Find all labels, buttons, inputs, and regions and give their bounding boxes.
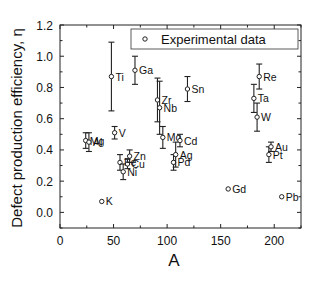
data-point-zr: Zr [154, 78, 171, 122]
point-label: Nb [164, 102, 178, 114]
data-point-mo: Mo [160, 127, 182, 149]
y-tick-label: 1.2 [36, 19, 53, 33]
marker-circle-icon [161, 135, 165, 139]
point-label: Au [275, 141, 288, 153]
marker-circle-icon [280, 195, 284, 199]
x-axis-title: A [168, 251, 180, 270]
point-label: Ga [139, 64, 153, 76]
y-tick-label: 0.2 [36, 175, 53, 189]
data-point-ti: Ti [108, 42, 123, 111]
y-axis-ticks: 0.00.20.40.60.81.01.2 [36, 19, 301, 229]
data-point-ga: Ga [132, 56, 153, 84]
plot-area-border [60, 25, 301, 228]
point-label: Ag [180, 149, 193, 161]
data-point-pb: Pb [280, 191, 299, 203]
y-tick-label: 0.4 [36, 143, 53, 157]
marker-circle-icon [171, 160, 175, 164]
point-label: K [106, 195, 113, 207]
data-point-al: Al [86, 133, 102, 152]
y-tick-label: 0.0 [36, 206, 53, 220]
marker-circle-icon [133, 68, 137, 72]
marker-circle-icon [109, 74, 113, 78]
marker-circle-icon [127, 154, 131, 158]
marker-circle-icon [267, 152, 271, 156]
data-point-k: K [100, 195, 113, 207]
point-label: W [261, 111, 271, 123]
legend-marker-icon [143, 37, 147, 41]
point-label: Pb [286, 191, 299, 203]
marker-circle-icon [252, 96, 256, 100]
plot-frame [60, 25, 301, 228]
data-point-v: V [112, 127, 126, 139]
marker-circle-icon [121, 170, 125, 174]
marker-circle-icon [155, 98, 159, 102]
marker-circle-icon [226, 187, 230, 191]
marker-circle-icon [100, 199, 104, 203]
data-point-sn: Sn [184, 77, 204, 102]
data-point-au: Au [268, 141, 288, 153]
legend-label: Experimental data [161, 32, 267, 47]
marker-circle-icon [87, 140, 91, 144]
x-tick-label: 150 [211, 234, 231, 248]
point-label: Zn [134, 150, 146, 162]
x-tick-label: 50 [107, 234, 121, 248]
marker-circle-icon [255, 115, 259, 119]
x-tick-label: 0 [57, 234, 64, 248]
point-label: Sn [191, 83, 204, 95]
point-label: Gd [232, 183, 246, 195]
y-tick-label: 1.0 [36, 50, 53, 64]
y-tick-label: 0.6 [36, 112, 53, 126]
marker-circle-icon [157, 106, 161, 110]
x-tick-label: 200 [264, 234, 284, 248]
marker-circle-icon [112, 131, 116, 135]
data-point-gd: Gd [226, 183, 246, 195]
data-point-cd: Cd [177, 134, 198, 146]
y-tick-label: 0.8 [36, 81, 53, 95]
marker-circle-icon [269, 145, 273, 149]
point-label: V [119, 127, 126, 139]
marker-circle-icon [178, 138, 182, 142]
data-point-w: W [254, 103, 271, 131]
point-label: Al [93, 136, 102, 148]
point-label: Re [263, 71, 277, 83]
scatter-chart: 050100150200 0.00.20.40.60.81.01.2 KMgAl… [0, 0, 318, 282]
data-point-zn: Zn [127, 150, 146, 162]
data-point-re: Re [256, 64, 277, 89]
marker-circle-icon [185, 87, 189, 91]
data-points: KMgAlTiVFeNiCuZnGaZrNbMoPdAgCdSnGdTaWReP… [83, 42, 299, 207]
y-axis-title: Defect production efficiency, η [8, 28, 25, 228]
point-label: Cd [184, 135, 198, 147]
data-point-nb: Nb [157, 81, 178, 134]
x-tick-label: 100 [157, 234, 177, 248]
legend: Experimental data [131, 29, 298, 49]
marker-circle-icon [173, 152, 177, 156]
point-label: Ti [115, 71, 123, 83]
marker-circle-icon [257, 74, 261, 78]
